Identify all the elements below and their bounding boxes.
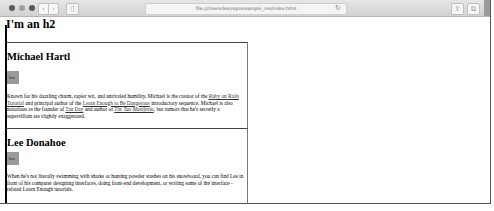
- address-bar[interactable]: file:///Users/lee/repos/sample_css/index…: [145, 3, 347, 15]
- bio-text: Known for his dazzling charm, rapier wit…: [7, 93, 245, 119]
- browser-toolbar: ‹ › ▯ file:///Users/lee/repos/sample_css…: [0, 0, 490, 17]
- maximize-window-icon[interactable]: [29, 5, 35, 11]
- sidebar-toggle-button[interactable]: ▯: [66, 3, 79, 15]
- reload-icon[interactable]: ↻: [335, 3, 343, 13]
- bio-name: Lee Donahoe: [7, 137, 66, 148]
- page-content: I'm an h2 Michael Hartl bio Known for hi…: [0, 17, 490, 203]
- share-button[interactable]: ⇪: [451, 3, 464, 15]
- bio-box-lee-donahoe: Lee Donahoe bio When he's not literally …: [6, 128, 248, 204]
- tau-manifesto-link[interactable]: The Tau Manifesto: [114, 106, 154, 112]
- tau-day-link[interactable]: Tau Day: [65, 106, 83, 112]
- browser-window: ‹ › ▯ file:///Users/lee/repos/sample_css…: [0, 0, 491, 204]
- learn-enough-link[interactable]: Learn Enough to Be Dangerous: [83, 100, 150, 106]
- minimize-window-icon[interactable]: [19, 5, 25, 11]
- bio-text-part: Known for his dazzling charm, rapier wit…: [7, 93, 209, 99]
- bio-tag: bio: [7, 152, 19, 165]
- page-heading: I'm an h2: [6, 17, 55, 32]
- close-window-icon[interactable]: [9, 5, 15, 11]
- forward-button[interactable]: ›: [48, 3, 59, 15]
- toolbar-edge: [484, 0, 490, 16]
- bio-text: When he's not literally swimming with sh…: [7, 173, 245, 193]
- bio-tag: bio: [7, 71, 19, 84]
- bio-name: Michael Hartl: [7, 51, 70, 62]
- bio-text-part: and author of: [83, 106, 114, 112]
- show-tabs-button[interactable]: ⧉: [467, 3, 480, 15]
- bio-box-michael-hartl: Michael Hartl bio Known for his dazzling…: [6, 42, 248, 129]
- bio-text-part: and principal author of the: [24, 100, 83, 106]
